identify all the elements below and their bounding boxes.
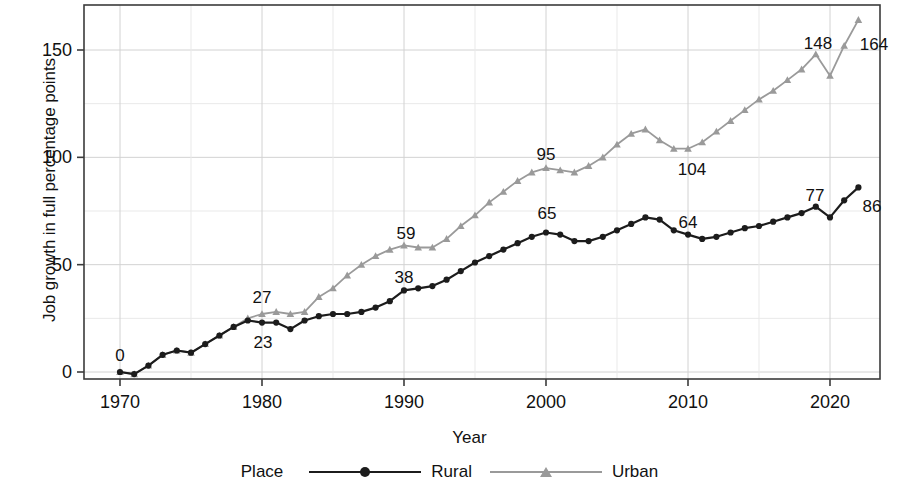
point-value-label: 27: [253, 288, 272, 308]
x-axis-title: Year: [0, 428, 899, 448]
legend-item-urban[interactable]: Urban: [490, 462, 658, 482]
point-value-label: 148: [804, 34, 832, 54]
point-value-label: 86: [863, 197, 882, 217]
point-value-label: 164: [860, 35, 888, 55]
chart-figure: Job growth in full percentage points 150…: [0, 0, 899, 494]
legend-label-urban: Urban: [612, 462, 658, 482]
urban-line-swatch-icon: [490, 471, 546, 473]
point-value-label: 0: [115, 346, 124, 366]
plot-area: [0, 0, 899, 494]
urban-line-swatch-icon-2: [546, 471, 602, 473]
point-value-label: 38: [395, 268, 414, 288]
legend-title: Place: [241, 462, 284, 482]
point-value-label: 77: [806, 186, 825, 206]
rural-line-swatch-icon: [309, 471, 365, 473]
point-value-label: 104: [678, 160, 706, 180]
rural-line-swatch-icon-2: [365, 471, 421, 473]
legend-item-rural[interactable]: Rural: [309, 462, 472, 482]
legend-label-rural: Rural: [431, 462, 472, 482]
point-value-label: 95: [537, 145, 556, 165]
point-value-label: 65: [538, 204, 557, 224]
point-value-label: 64: [679, 213, 698, 233]
point-value-label: 59: [397, 224, 416, 244]
point-value-label: 23: [254, 333, 273, 353]
chart-legend: Place Rural Urban: [0, 462, 899, 482]
x-axis-title-text: Year: [452, 428, 486, 447]
